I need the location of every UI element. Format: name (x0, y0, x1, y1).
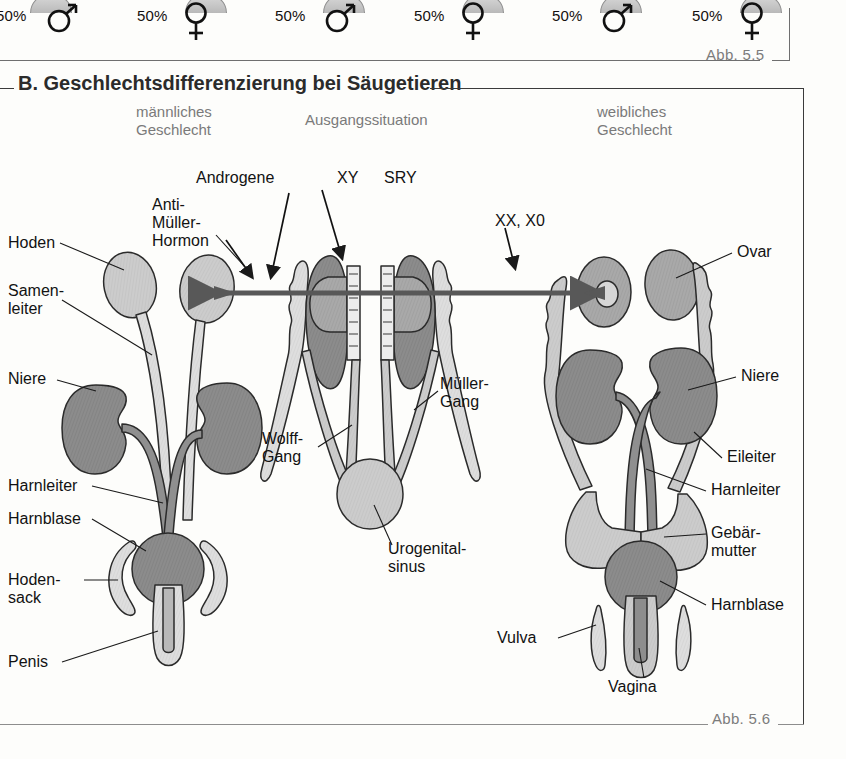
differentiation-axis-arrow (214, 286, 605, 300)
labia-right-shape (676, 606, 691, 671)
leader-ovar (676, 253, 732, 278)
labia-left-shape (591, 606, 606, 671)
bladder-shape (132, 533, 204, 605)
figure-caption: Abb. 5.6 (712, 710, 770, 727)
section-rule-left (0, 88, 14, 89)
label-harnblase-right: Harnblase (711, 596, 784, 614)
label-wolff-line1: Wolff- (262, 430, 303, 448)
leader-lines (57, 235, 736, 678)
previous-figure-strip: 50% 50% 50% 50% 50% 50% (0, 0, 846, 52)
label-samenleiter-line2: leiter (8, 300, 64, 318)
ureter-left (122, 424, 172, 558)
column-header-initial: Ausgangssituation (305, 111, 428, 129)
figure-caption-rule-left (676, 724, 708, 725)
leader-harnleiter-l (92, 486, 163, 503)
leader-samenleiter (62, 300, 152, 355)
hormone-arrows (226, 190, 515, 277)
label-harnleiter-left: Harnleiter (8, 477, 77, 495)
label-hodensack-line1: Hoden- (8, 571, 60, 589)
label-vagina: Vagina (608, 678, 657, 696)
label-hodensack: Hoden- sack (8, 571, 60, 607)
label-mueller-line2: Gang (440, 393, 489, 411)
label-sry: SRY (384, 169, 417, 187)
leader-eileiter (694, 432, 722, 458)
previous-figure-rule (0, 60, 760, 61)
column-header-female-line2: Geschlecht (597, 121, 672, 139)
vagina-shape (624, 596, 658, 678)
wolffian-duct-right (381, 360, 396, 485)
testis-left-shape (98, 247, 163, 322)
column-header-female: weibliches Geschlecht (597, 103, 672, 139)
label-anti-mueller-line3: Hormon (152, 232, 209, 250)
label-androgene: Androgene (196, 169, 274, 187)
leader-urogenital (374, 505, 392, 545)
label-urogenital-line2: sinus (388, 558, 466, 576)
leader-niere-r (688, 377, 736, 390)
label-niere-right: Niere (741, 367, 779, 385)
leader-gebaermutter (664, 534, 706, 537)
uterus-horn-right (641, 494, 707, 570)
ureter-left-f (616, 392, 657, 552)
label-niere-left: Niere (8, 370, 46, 388)
female-symbol-icon (187, 4, 206, 41)
label-mueller-gang: Müller- Gang (440, 375, 489, 411)
column-header-male-line2: Geschlecht (136, 121, 212, 139)
vas-deferens-left (136, 312, 172, 520)
male-symbol-icon (49, 5, 76, 31)
label-penis: Penis (8, 653, 48, 671)
label-xy: XY (337, 169, 358, 187)
column-header-male: männliches Geschlecht (136, 103, 212, 139)
indifferent-gonad-left (306, 256, 348, 389)
anti-mueller-arrow (226, 240, 252, 277)
gonad-cap-right (394, 277, 431, 332)
label-mueller-line1: Müller- (440, 375, 489, 393)
male-anatomy-group (62, 247, 262, 665)
kidney-right-shape-f (650, 348, 717, 444)
leader-harnblase-l (92, 519, 146, 551)
column-header-female-line1: weibliches (597, 103, 672, 121)
label-xx-x0: XX, X0 (495, 212, 545, 230)
mesonephric-tubules-left (347, 266, 360, 360)
mesonephric-tubules-right (381, 266, 394, 360)
column-header-initial-line1: Ausgangssituation (305, 111, 428, 129)
xy-arrow (322, 190, 342, 258)
indifferent-gonad-right (393, 256, 435, 389)
muellerian-duct-left (302, 350, 352, 488)
label-urogenitalsinus: Urogenital- sinus (388, 540, 466, 576)
androgene-arrow (271, 193, 289, 277)
label-samenleiter: Samen- leiter (8, 282, 64, 318)
leader-harnleiter-r (646, 469, 706, 491)
leader-vagina (639, 648, 644, 678)
penis-urethra (163, 588, 174, 653)
label-harnblase-left: Harnblase (8, 510, 81, 528)
figure-caption-rule-right (778, 724, 804, 725)
urogenital-sinus-shape (337, 459, 403, 529)
ovary-follicle (596, 281, 618, 307)
previous-figure-caption: Abb. 5.5 (706, 46, 764, 63)
label-gebaermutter-line2: mutter (711, 542, 761, 560)
scrotum-right-shape (200, 541, 227, 615)
penis-shape (153, 585, 184, 666)
bladder-shape-f (605, 541, 677, 613)
previous-figure-caption-rule (772, 60, 790, 61)
female-symbol-icon (743, 4, 762, 41)
page-title: B. Geschlechtsdifferenzierung bei Säuget… (18, 72, 461, 95)
label-gebaermutter: Gebär- mutter (711, 524, 761, 560)
label-anti-mueller-line1: Anti- (152, 196, 209, 214)
label-hodensack-line2: sack (8, 589, 60, 607)
male-symbol-icon (604, 5, 631, 31)
kidney-left-shape (62, 385, 126, 474)
label-hoden: Hoden (8, 234, 55, 252)
section-rule-right (430, 88, 804, 89)
label-wolff-line2: Gang (262, 448, 303, 466)
section-rule-bottom (0, 724, 676, 725)
label-wolff-gang: Wolff- Gang (262, 430, 303, 466)
vagina-canal (634, 598, 647, 663)
leader-vulva (558, 625, 596, 638)
section-frame-right (803, 88, 804, 725)
label-eileiter: Eileiter (727, 448, 776, 466)
label-ovar: Ovar (737, 243, 772, 261)
ureter-right-f (625, 392, 660, 552)
xx-x0-arrow (505, 228, 515, 268)
ureter-right (163, 430, 202, 558)
